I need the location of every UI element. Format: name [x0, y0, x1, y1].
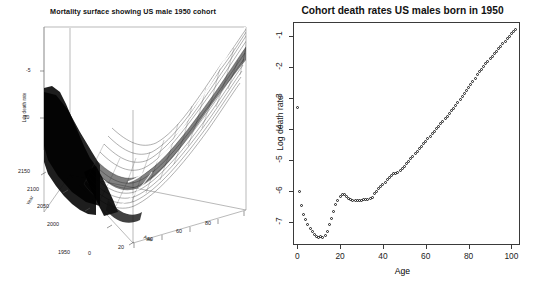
data-point [429, 135, 432, 138]
y-tick-mark [289, 222, 293, 223]
z-axis-ticks [40, 71, 44, 118]
x-tick-mark [469, 245, 470, 249]
mortality-surface-mesh [44, 24, 250, 223]
y-tick-label: -7 [274, 213, 284, 229]
x-tick-mark [297, 245, 298, 249]
data-point [446, 115, 449, 118]
data-point [300, 204, 303, 207]
right-panel-scatter: Cohort death rates US males born in 1950… [266, 0, 539, 285]
data-point [499, 45, 502, 48]
year-tick-0: 1950 [58, 249, 70, 255]
data-point [330, 217, 333, 220]
mortality-figure: Mortality surface showing US male 1950 c… [0, 0, 539, 285]
data-point [467, 86, 470, 89]
y-tick-mark [289, 98, 293, 99]
left-z-axis-label: Log death rate [22, 78, 27, 138]
data-point [384, 181, 387, 184]
x-tick-mark [426, 245, 427, 249]
x-tick-label: 100 [501, 251, 521, 261]
data-point [296, 106, 299, 109]
x-tick-label: 20 [330, 251, 350, 261]
right-x-axis-label: Age [266, 266, 539, 276]
x-tick-mark [383, 245, 384, 249]
data-point [491, 55, 494, 58]
year-tick-4: 2150 [18, 168, 30, 174]
data-point [416, 150, 419, 153]
z-tick-1: -10 [22, 114, 29, 120]
data-point [326, 230, 329, 233]
y-tick-label: -4 [274, 120, 284, 136]
y-tick-label: -2 [274, 58, 284, 74]
y-tick-label: -3 [274, 89, 284, 105]
cohort-1950-highlight-line [128, 26, 246, 182]
y-tick-mark [289, 67, 293, 68]
y-tick-mark [289, 129, 293, 130]
right-panel-title: Cohort death rates US males born in 1950 [266, 5, 539, 16]
data-point [461, 95, 464, 98]
data-point [332, 210, 335, 213]
data-point [324, 234, 327, 237]
data-point [459, 98, 462, 101]
data-point [437, 125, 440, 128]
data-point [482, 65, 485, 68]
year-tick-1: 2000 [47, 221, 59, 227]
data-point [480, 68, 483, 71]
age-tick-1: 20 [118, 244, 124, 250]
y-tick-label: -5 [274, 151, 284, 167]
x-tick-label: 40 [373, 251, 393, 261]
data-point [463, 92, 466, 95]
y-tick-label: -6 [274, 182, 284, 198]
data-point [452, 107, 455, 110]
z-tick-0: -5 [26, 67, 30, 73]
data-point [420, 145, 423, 148]
age-tick-0: 0 [88, 250, 91, 256]
x-tick-label: 80 [459, 251, 479, 261]
age-tick-4: 80 [205, 220, 211, 226]
x-tick-label: 60 [416, 251, 436, 261]
scatter-plot-area [293, 22, 520, 245]
data-point [433, 130, 436, 133]
data-point [371, 196, 374, 199]
data-point [375, 190, 378, 193]
data-point [508, 35, 511, 38]
left-panel-3d-surface: Mortality surface showing US male 1950 c… [0, 0, 266, 285]
year-tick-2: 2050 [37, 203, 49, 209]
x-tick-label: 0 [287, 251, 307, 261]
y-tick-mark [289, 191, 293, 192]
age-tick-3: 60 [176, 228, 182, 234]
data-point [495, 50, 498, 53]
x-tick-mark [340, 245, 341, 249]
data-point [298, 190, 301, 193]
data-point [465, 89, 468, 92]
y-tick-mark [289, 36, 293, 37]
x-tick-mark [511, 245, 512, 249]
data-point [474, 77, 477, 80]
data-point [504, 40, 507, 43]
y-tick-mark [289, 160, 293, 161]
data-point [514, 28, 517, 31]
surface-plot-svg [0, 0, 266, 285]
y-tick-label: -1 [274, 27, 284, 43]
